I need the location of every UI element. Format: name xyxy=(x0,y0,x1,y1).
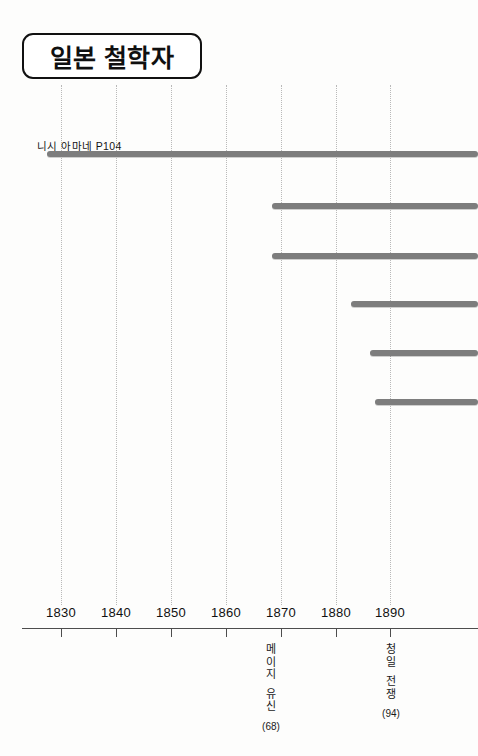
gridline-1850 xyxy=(171,85,172,605)
axis-label-1830: 1830 xyxy=(46,605,76,620)
page-title: 일본 철학자 xyxy=(50,38,175,74)
annotation-sino-japanese-war: 청 일 전 쟁 (94) xyxy=(382,643,400,719)
annotation-meiji-restoration: 메 이 지 유 신 (68) xyxy=(262,643,280,732)
plot-area: 니시 아마네 P104 1830 1840 1850 1860 1870 188… xyxy=(0,0,478,756)
gridline-1880 xyxy=(336,85,337,605)
axis-label-1890: 1890 xyxy=(375,605,405,620)
timeline-bar-3[interactable] xyxy=(351,301,478,307)
axis-label-1880: 1880 xyxy=(321,605,351,620)
axis-tick-1840 xyxy=(116,628,117,637)
gridline-1830 xyxy=(61,85,62,605)
annotation-war-char-3: 쟁 xyxy=(386,688,396,701)
axis-tick-1890 xyxy=(390,628,391,637)
gridline-1860 xyxy=(226,85,227,605)
gridline-1870 xyxy=(281,85,282,605)
axis-tick-1870 xyxy=(281,628,282,637)
axis-label-1870: 1870 xyxy=(266,605,296,620)
annotation-meiji-char-1: 이 xyxy=(266,656,276,669)
annotation-meiji-char-3: 유 xyxy=(266,688,276,701)
axis-tick-1860 xyxy=(226,628,227,637)
chart-title-box: 일본 철학자 xyxy=(22,33,202,79)
annotation-meiji-year: (68) xyxy=(262,721,280,732)
annotation-war-char-2: 전 xyxy=(386,675,396,688)
x-axis-line xyxy=(22,628,478,629)
annotation-war-char-1: 일 xyxy=(386,656,396,669)
annotation-war-char-0: 청 xyxy=(386,643,396,656)
gridline-1840 xyxy=(116,85,117,605)
gridline-1890 xyxy=(390,85,391,605)
annotation-meiji-char-2: 지 xyxy=(266,668,276,681)
axis-tick-1850 xyxy=(171,628,172,637)
axis-tick-1880 xyxy=(336,628,337,637)
timeline-bar-2[interactable] xyxy=(272,253,478,259)
axis-label-1850: 1850 xyxy=(156,605,186,620)
axis-label-1860: 1860 xyxy=(211,605,241,620)
axis-label-1840: 1840 xyxy=(101,605,131,620)
timeline-bar-1[interactable] xyxy=(272,203,478,209)
annotation-meiji-char-0: 메 xyxy=(266,643,276,656)
timeline-bar-5[interactable] xyxy=(375,399,478,405)
annotation-war-year: (94) xyxy=(382,708,400,719)
timeline-bar-4[interactable] xyxy=(370,350,478,356)
annotation-meiji-char-4: 신 xyxy=(266,700,276,713)
axis-tick-1830 xyxy=(61,628,62,637)
timeline-chart-page: 일본 철학자 니시 아마네 P104 1830 xyxy=(0,0,478,756)
bar-label-0: 니시 아마네 P104 xyxy=(37,138,122,153)
